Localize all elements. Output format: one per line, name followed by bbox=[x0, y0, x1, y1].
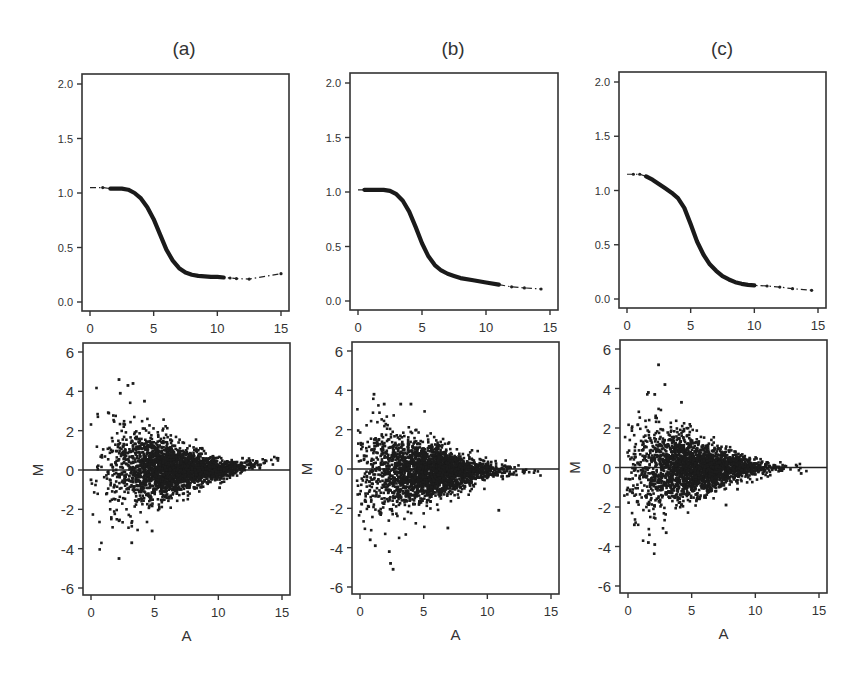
y-tick-label: -6 bbox=[598, 578, 611, 595]
panel-title-c: (c) bbox=[711, 38, 733, 59]
outlier-point bbox=[664, 383, 667, 386]
outlier-point bbox=[90, 478, 93, 481]
outlier-point bbox=[374, 544, 377, 547]
curve-point bbox=[228, 276, 231, 279]
y-axis-label: M bbox=[566, 461, 583, 474]
x-tick-label: 10 bbox=[748, 603, 762, 618]
y-tick-label: 2 bbox=[603, 420, 611, 437]
x-tick-label: 0 bbox=[623, 318, 630, 333]
y-tick-label: 1.5 bbox=[595, 130, 610, 142]
outlier-point bbox=[369, 538, 372, 541]
outlier-point bbox=[132, 382, 135, 385]
y-tick-label: 0 bbox=[66, 462, 74, 479]
x-tick-label: 10 bbox=[210, 321, 224, 336]
y-tick-label: 4 bbox=[66, 383, 74, 400]
outlier-point bbox=[383, 403, 386, 406]
x-tick-label: 5 bbox=[688, 603, 695, 618]
x-tick-label: 10 bbox=[479, 320, 493, 335]
outlier-point bbox=[653, 543, 656, 546]
y-tick-label: 6 bbox=[66, 344, 74, 361]
x-tick-label: 10 bbox=[747, 318, 761, 333]
outlier-point bbox=[665, 531, 668, 534]
y-tick-label: 0.5 bbox=[326, 241, 341, 253]
outlier-point bbox=[392, 568, 395, 571]
y-tick-label: 0.0 bbox=[58, 296, 73, 308]
outlier-point bbox=[276, 457, 279, 460]
y-tick-label: 1.0 bbox=[326, 186, 341, 198]
y-tick-label: 1.5 bbox=[58, 133, 73, 145]
plot-area: 0.00.51.01.52.00510150.00.51.01.52.00510… bbox=[29, 72, 827, 644]
curve-point bbox=[791, 287, 794, 290]
y-tick-label: 0 bbox=[603, 460, 611, 477]
chart-bottom-c: -6-4-20246051015AM bbox=[566, 340, 827, 642]
outlier-point bbox=[218, 486, 221, 489]
x-axis-label: A bbox=[718, 625, 728, 642]
curve-point bbox=[248, 278, 251, 281]
y-tick-label: 0.0 bbox=[326, 295, 341, 307]
panel-title-a: (a) bbox=[172, 38, 195, 59]
x-tick-label: 10 bbox=[480, 604, 494, 619]
chart-top-a: 0.00.51.01.52.0051015 bbox=[58, 74, 289, 336]
x-tick-label: 5 bbox=[687, 318, 694, 333]
outlier-point bbox=[241, 457, 244, 460]
x-axis-label: A bbox=[181, 627, 191, 644]
x-tick-label: 0 bbox=[87, 605, 94, 620]
outlier-point bbox=[119, 392, 122, 395]
outlier-point bbox=[800, 472, 803, 475]
x-tick-label: 0 bbox=[86, 321, 93, 336]
y-tick-label: -4 bbox=[330, 540, 343, 557]
x-tick-label: 15 bbox=[544, 604, 558, 619]
ma-plot-figure: (a) (b) (c) 0.00.51.01.52.00510150.00.51… bbox=[0, 0, 860, 683]
y-tick-label: 2.0 bbox=[595, 76, 610, 88]
y-tick-label: -6 bbox=[330, 579, 343, 596]
x-tick-label: 0 bbox=[624, 603, 631, 618]
y-tick-label: 4 bbox=[603, 381, 611, 398]
curve-point bbox=[235, 277, 238, 280]
y-tick-label: 2 bbox=[335, 422, 343, 439]
curve-point bbox=[632, 173, 635, 176]
y-tick-label: 0 bbox=[335, 461, 343, 478]
outlier-point bbox=[497, 509, 500, 512]
curve-point bbox=[539, 287, 542, 290]
curve-point bbox=[810, 289, 813, 292]
curve-point bbox=[778, 285, 781, 288]
x-tick-label: 15 bbox=[274, 321, 288, 336]
x-tick-label: 15 bbox=[275, 605, 289, 620]
scatter-points bbox=[90, 378, 280, 560]
curve-fitted bbox=[646, 176, 754, 285]
outlier-point bbox=[151, 530, 154, 533]
x-tick-label: 5 bbox=[151, 605, 158, 620]
outlier-point bbox=[389, 562, 392, 565]
x-tick-label: 5 bbox=[150, 321, 157, 336]
outlier-point bbox=[143, 400, 146, 403]
outlier-point bbox=[633, 523, 636, 526]
curve-point bbox=[101, 186, 104, 189]
panel-title-b: (b) bbox=[441, 38, 464, 59]
y-axis-label: M bbox=[29, 464, 46, 477]
y-tick-label: 6 bbox=[603, 341, 611, 358]
outlier-point bbox=[680, 401, 683, 404]
outlier-point bbox=[127, 384, 130, 387]
x-axis-label: A bbox=[450, 626, 460, 643]
scatter-points bbox=[356, 393, 542, 571]
y-tick-label: 4 bbox=[335, 382, 343, 399]
curve-point bbox=[510, 285, 513, 288]
outlier-point bbox=[647, 391, 650, 394]
scatter-points bbox=[623, 363, 808, 555]
outlier-point bbox=[118, 557, 121, 560]
x-tick-label: 15 bbox=[543, 320, 557, 335]
curve-point bbox=[638, 173, 641, 176]
y-tick-label: -4 bbox=[598, 539, 611, 556]
x-tick-label: 15 bbox=[812, 603, 826, 618]
y-tick-label: -4 bbox=[61, 541, 74, 558]
outlier-point bbox=[410, 403, 413, 406]
outlier-point bbox=[657, 363, 660, 366]
y-tick-label: 2.0 bbox=[326, 77, 341, 89]
y-tick-label: -2 bbox=[330, 500, 343, 517]
x-tick-label: 10 bbox=[211, 605, 225, 620]
chart-top-c: 0.00.51.01.52.0051015 bbox=[595, 72, 826, 333]
chart-bottom-b: -6-4-20246051015AM bbox=[298, 342, 559, 643]
outlier-point bbox=[446, 527, 449, 530]
curve-point bbox=[523, 286, 526, 289]
y-tick-label: 2.0 bbox=[58, 78, 73, 90]
